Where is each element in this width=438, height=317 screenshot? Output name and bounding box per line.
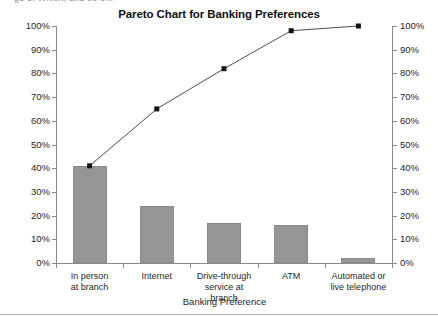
cumulative-line-marker — [154, 106, 159, 111]
cumulative-line-series — [0, 0, 438, 317]
cumulative-line-marker — [222, 66, 227, 71]
x-axis-category-label: ATM — [258, 271, 325, 282]
right-axis-tick-label: 40% — [400, 163, 419, 173]
left-axis-tick — [52, 97, 56, 98]
right-axis-tick — [393, 73, 397, 74]
x-axis-category-label: Automated or live telephone — [325, 271, 392, 293]
x-axis-tick — [190, 264, 191, 268]
x-axis-tick — [325, 264, 326, 268]
bottom-axis-line — [56, 263, 393, 264]
x-axis-tick — [56, 264, 57, 268]
left-axis-tick-label: 20% — [31, 211, 50, 221]
right-axis-tick-label: 20% — [400, 211, 419, 221]
right-axis-tick — [393, 97, 397, 98]
right-axis-tick-label: 10% — [400, 234, 419, 244]
right-axis-tick — [393, 121, 397, 122]
left-axis-tick-label: 30% — [31, 187, 50, 197]
page-bottom-rule — [0, 314, 438, 315]
left-axis-tick — [52, 50, 56, 51]
right-axis-tick — [393, 145, 397, 146]
left-axis-tick-label: 0% — [36, 258, 50, 268]
bar — [341, 258, 375, 263]
cumulative-line-marker — [356, 24, 361, 29]
cumulative-line-marker — [289, 28, 294, 33]
left-axis-tick-label: 40% — [31, 163, 50, 173]
left-axis-tick-label: 50% — [31, 140, 50, 150]
left-axis-tick-label: 10% — [31, 234, 50, 244]
right-axis-tick-label: 90% — [400, 45, 419, 55]
right-axis-tick — [393, 239, 397, 240]
bar — [274, 225, 308, 263]
right-axis-tick-label: 100% — [400, 21, 424, 31]
right-axis-tick-label: 50% — [400, 140, 419, 150]
left-axis-tick — [52, 145, 56, 146]
left-axis-tick-label: 70% — [31, 92, 50, 102]
left-axis-tick — [52, 216, 56, 217]
left-axis-tick — [52, 121, 56, 122]
right-axis-tick — [393, 26, 397, 27]
right-axis-tick-label: 0% — [400, 258, 414, 268]
x-axis-category-label: In person at branch — [56, 271, 123, 293]
left-axis-tick — [52, 168, 56, 169]
x-axis-tick — [258, 264, 259, 268]
right-axis-tick — [393, 216, 397, 217]
right-axis-tick-label: 60% — [400, 116, 419, 126]
x-axis-tick — [123, 264, 124, 268]
cumulative-line-path — [90, 26, 359, 166]
left-axis-tick — [52, 239, 56, 240]
left-axis-line — [56, 26, 57, 264]
right-axis-tick — [393, 192, 397, 193]
left-axis-tick — [52, 192, 56, 193]
left-axis-tick — [52, 26, 56, 27]
left-axis-tick-label: 100% — [26, 21, 50, 31]
left-axis-tick-label: 80% — [31, 68, 50, 78]
x-axis-title: Banking Preference — [56, 296, 393, 307]
left-axis-tick-label: 60% — [31, 116, 50, 126]
right-axis-tick — [393, 50, 397, 51]
chart-title: Pareto Chart for Banking Preferences — [0, 8, 438, 20]
x-axis-category-label: Internet — [123, 271, 190, 282]
right-axis-tick — [393, 263, 397, 264]
right-axis-tick — [393, 168, 397, 169]
bar — [140, 206, 174, 263]
x-axis-tick — [392, 264, 393, 268]
right-axis-tick-label: 70% — [400, 92, 419, 102]
bar — [73, 166, 107, 263]
right-axis-tick-label: 30% — [400, 187, 419, 197]
right-axis-tick-label: 80% — [400, 68, 419, 78]
left-axis-tick-label: 90% — [31, 45, 50, 55]
clipped-header-text: ge 3: Which, and so on. — [14, 0, 113, 3]
left-axis-tick — [52, 73, 56, 74]
bar — [207, 223, 241, 263]
